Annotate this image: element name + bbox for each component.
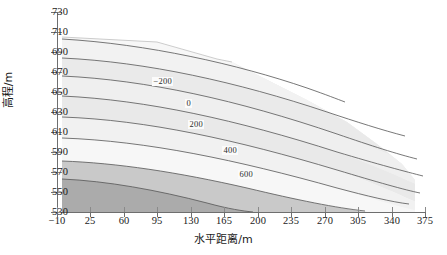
contour-label-200: 200 [188,120,204,129]
contour-label-minus200: −200 [152,77,173,86]
x-tick-inner [425,207,426,212]
y-tick-label: 710 [28,27,68,38]
x-tick-inner [358,207,359,212]
contour-label-600: 600 [238,170,254,179]
y-tick-label: 570 [28,167,68,178]
x-tick-inner [124,207,125,212]
contour-label-0: 0 [185,99,192,108]
x-axis-title-text: 水平距离/m [194,233,252,246]
x-tick-inner [57,207,58,212]
y-tick-label: 730 [28,7,68,18]
contour-figure: −200 0 200 400 600 530550570590610630650… [0,0,447,255]
y-axis-title-text: 高程/m [3,60,15,120]
x-tick-label: 375 [405,216,445,227]
x-tick-inner [291,207,292,212]
x-tick-inner [224,207,225,212]
y-tick-label: 630 [28,107,68,118]
y-tick-label: 550 [28,187,68,198]
y-tick-label: 690 [28,47,68,58]
y-tick-label: 670 [28,67,68,78]
contour-plot-canvas [57,12,425,212]
x-axis-line [57,212,425,213]
y-tick-label: 610 [28,127,68,138]
x-axis-title: 水平距离/m [0,233,447,246]
x-tick-inner [191,207,192,212]
y-tick-label: 650 [28,87,68,98]
x-tick-inner [90,207,91,212]
y-tick-label: 590 [28,147,68,158]
x-tick-inner [325,207,326,212]
x-tick-inner [157,207,158,212]
contour-label-400: 400 [222,146,238,155]
y-axis-title: 高程/m [3,83,15,97]
contour-bands [57,12,425,212]
x-tick-inner [392,207,393,212]
x-tick-inner [258,207,259,212]
